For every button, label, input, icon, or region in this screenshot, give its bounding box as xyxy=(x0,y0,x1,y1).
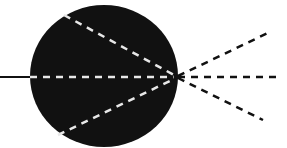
black-lens-circle xyxy=(30,5,178,147)
focal-point xyxy=(174,75,179,80)
outer-ray-2 xyxy=(178,78,263,120)
lens-ray-diagram xyxy=(0,0,287,148)
outer-ray-0 xyxy=(178,32,270,76)
outer-dashed-rays xyxy=(178,32,280,120)
